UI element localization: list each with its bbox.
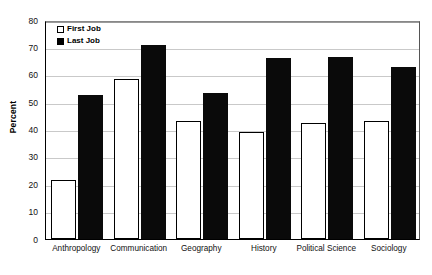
bar-first-job bbox=[301, 123, 326, 239]
y-tick-label-20: 20 bbox=[8, 181, 38, 190]
x-tick-label: Communication bbox=[108, 244, 171, 253]
bar-last-job bbox=[391, 67, 416, 239]
x-tick-label: Political Science bbox=[295, 244, 358, 253]
x-tick-label: Geography bbox=[170, 244, 233, 253]
bar-group bbox=[109, 22, 172, 239]
x-tick-label: Anthropology bbox=[45, 244, 108, 253]
bar-first-job bbox=[364, 121, 389, 239]
y-tick-label-70: 70 bbox=[8, 44, 38, 53]
y-tick-label-10: 10 bbox=[8, 208, 38, 217]
bar-last-job bbox=[328, 57, 353, 239]
y-tick-label-60: 60 bbox=[8, 71, 38, 80]
x-tick-label: History bbox=[233, 244, 296, 253]
legend: First JobLast Job bbox=[57, 25, 101, 45]
filled-square-icon bbox=[57, 38, 64, 45]
bar-last-job bbox=[266, 58, 291, 239]
y-tick-label-30: 30 bbox=[8, 153, 38, 162]
x-tick-label: Sociology bbox=[358, 244, 421, 253]
y-tick-label-80: 80 bbox=[8, 17, 38, 26]
legend-item: Last Job bbox=[57, 37, 101, 45]
y-tick-label-0: 0 bbox=[8, 236, 38, 245]
bar-last-job bbox=[78, 95, 103, 239]
bar-group bbox=[296, 22, 359, 239]
bar-group bbox=[359, 22, 422, 239]
legend-item: First Job bbox=[57, 25, 101, 33]
bar-last-job bbox=[141, 45, 166, 239]
bar-group bbox=[46, 22, 109, 239]
legend-item-label: First Job bbox=[67, 25, 101, 33]
bar-chart: Percent 80706050403020100 AnthropologyCo… bbox=[0, 0, 432, 275]
bar-first-job bbox=[114, 79, 139, 239]
bar-group bbox=[234, 22, 297, 239]
legend-item-label: Last Job bbox=[67, 37, 100, 45]
bar-first-job bbox=[239, 132, 264, 239]
bar-group bbox=[171, 22, 234, 239]
bar-first-job bbox=[176, 121, 201, 239]
plot-area bbox=[45, 21, 420, 240]
bar-first-job bbox=[51, 180, 76, 239]
bar-last-job bbox=[203, 93, 228, 239]
y-axis-title: Percent bbox=[8, 82, 18, 152]
hollow-square-icon bbox=[57, 26, 64, 33]
